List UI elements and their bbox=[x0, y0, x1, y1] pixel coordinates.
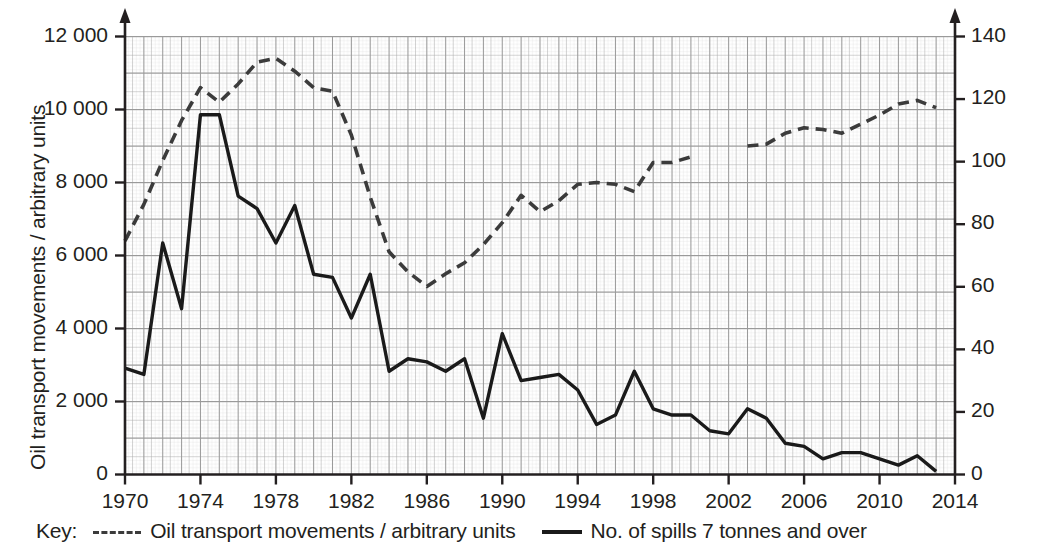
legend-entry-spills: No. of spills 7 tonnes and over bbox=[542, 519, 867, 543]
chart-plot-area bbox=[0, 0, 1044, 550]
tick-label: 60 bbox=[971, 273, 994, 297]
tick-label: 1974 bbox=[160, 489, 240, 513]
tick-label: 1982 bbox=[311, 489, 391, 513]
tick-label: 2002 bbox=[689, 489, 769, 513]
legend-label-oil-transport: Oil transport movements / arbitrary unit… bbox=[150, 519, 515, 543]
tick-label: 6 000 bbox=[0, 242, 108, 266]
tick-label: 40 bbox=[971, 335, 994, 359]
tick-label: 1978 bbox=[236, 489, 316, 513]
chart-figure: Oil transport movements / arbitrary unit… bbox=[0, 0, 1044, 550]
tick-label: 120 bbox=[971, 85, 1006, 109]
legend-solid-line-icon bbox=[542, 530, 582, 534]
tick-label: 1998 bbox=[613, 489, 693, 513]
legend-label-spills: No. of spills 7 tonnes and over bbox=[591, 519, 867, 543]
tick-label: 2 000 bbox=[0, 388, 108, 412]
tick-label: 4 000 bbox=[0, 315, 108, 339]
y-axis-left-title: Oil transport movements / arbitrary unit… bbox=[26, 105, 50, 470]
tick-label: 10 000 bbox=[0, 96, 108, 120]
tick-label: 0 bbox=[971, 461, 983, 485]
legend-dashed-line-icon bbox=[93, 531, 141, 534]
grid-layer bbox=[125, 37, 955, 475]
chart-legend: Key: Oil transport movements / arbitrary… bbox=[0, 512, 1044, 550]
tick-label: 1990 bbox=[462, 489, 542, 513]
tick-label: 1994 bbox=[538, 489, 618, 513]
tick-label: 2014 bbox=[915, 489, 995, 513]
tick-label: 100 bbox=[971, 148, 1006, 172]
tick-label: 2010 bbox=[840, 489, 920, 513]
legend-entry-oil-transport: Oil transport movements / arbitrary unit… bbox=[93, 519, 515, 543]
tick-label: 12 000 bbox=[0, 23, 108, 47]
legend-key-word: Key: bbox=[36, 519, 77, 543]
tick-label: 1970 bbox=[85, 489, 165, 513]
tick-label: 80 bbox=[971, 210, 994, 234]
tick-label: 140 bbox=[971, 23, 1006, 47]
tick-label: 2006 bbox=[764, 489, 844, 513]
tick-label: 0 bbox=[0, 461, 108, 485]
tick-label: 1986 bbox=[387, 489, 467, 513]
tick-label: 8 000 bbox=[0, 169, 108, 193]
tick-label: 20 bbox=[971, 398, 994, 422]
